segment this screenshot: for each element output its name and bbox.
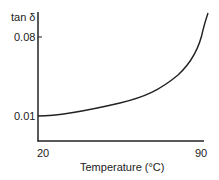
y-tick-label-high: 0.08 — [14, 31, 35, 43]
y-tick-label-low: 0.01 — [14, 110, 35, 122]
chart-plot — [0, 0, 219, 180]
x-axis-label: Temperature (°C) — [80, 161, 164, 173]
x-tick-label-high: 90 — [195, 147, 207, 159]
x-tick-label-low: 20 — [37, 147, 49, 159]
data-curve — [38, 13, 208, 116]
y-axis-label: tan δ — [11, 11, 35, 23]
